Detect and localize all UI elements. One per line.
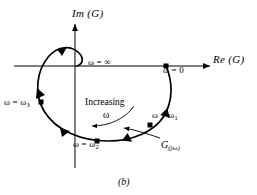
omega-three-label: ω = ω3 bbox=[4, 98, 30, 107]
omega-two-subscript: 2 bbox=[95, 143, 98, 150]
nyquist-plot-canvas bbox=[0, 0, 257, 195]
point-omega-one bbox=[148, 123, 153, 128]
omega-three-subscript: 3 bbox=[26, 101, 29, 108]
increasing-omega-symbol: ω bbox=[103, 111, 109, 121]
omega-two-label: ω = ω2 bbox=[73, 140, 99, 149]
transfer-function-label: G(jω) bbox=[161, 140, 180, 150]
omega-one-label-text: ω = ω bbox=[152, 110, 174, 120]
direction-arrow-4 bbox=[36, 88, 45, 99]
increasing-annotation: Increasing bbox=[85, 98, 125, 108]
nyquist-plot-figure: Im (G) Re (G) ω = ∞ ω = 0 ω = ω3 ω = ω1 … bbox=[0, 0, 257, 195]
omega-one-subscript: 1 bbox=[174, 114, 177, 121]
omega-three-label-text: ω = ω bbox=[4, 97, 26, 107]
transfer-function-argument: (jω) bbox=[168, 144, 180, 152]
omega-infinity-label: ω = ∞ bbox=[88, 58, 111, 67]
omega-two-label-text: ω = ω bbox=[73, 139, 95, 149]
imaginary-axis-label: Im (G) bbox=[72, 8, 103, 19]
real-axis-label: Re (G) bbox=[213, 54, 244, 65]
increasing-omega-arrow bbox=[92, 106, 134, 126]
point-omega-three bbox=[39, 100, 44, 105]
omega-one-label: ω = ω1 bbox=[152, 111, 178, 120]
figure-caption: (b) bbox=[118, 177, 130, 187]
omega-zero-label: ω = 0 bbox=[163, 66, 184, 75]
